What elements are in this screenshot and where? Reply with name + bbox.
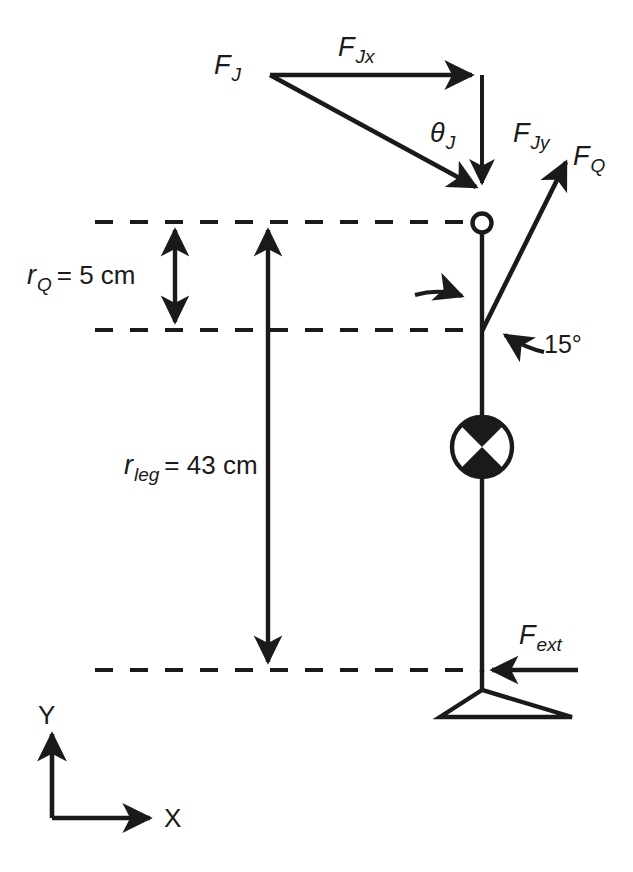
quad-insertion-leader-arrow [415, 292, 462, 296]
moment-arm-quad-label: rQ= 5 cm [27, 262, 136, 289]
moment-arm-leg-symbol: r [124, 452, 133, 479]
force-joint-y-label: FJy [513, 120, 549, 147]
force-joint-x-subscript: Jx [356, 47, 375, 66]
force-joint-y-subscript: Jy [531, 133, 550, 152]
center-of-mass-icon [452, 417, 512, 477]
moment-arm-leg-subscript: leg [134, 465, 159, 484]
force-joint-label: FJ [214, 52, 240, 79]
force-external-label: Fext [519, 622, 561, 649]
biomechanics-free-body-diagram: FJ FJx θJ FJy FQ 15° rQ= 5 cm rleg= 43 c… [0, 0, 633, 872]
axis-x-label: X [164, 805, 181, 831]
foot-triangle [440, 690, 572, 717]
force-joint-x-label: FJx [338, 34, 374, 61]
angle-quad-label: 15° [544, 332, 582, 357]
force-joint-x-symbol: F [338, 34, 355, 61]
force-quad-subscript: Q [591, 156, 606, 175]
quadriceps-force-vector [482, 162, 566, 331]
moment-arm-quad-symbol: r [27, 262, 36, 289]
force-external-subscript: ext [537, 635, 562, 654]
moment-arm-leg-label: rleg= 43 cm [124, 452, 258, 479]
leader-arrows [415, 292, 544, 352]
force-joint-subscript: J [232, 65, 242, 84]
force-quad-vector [482, 162, 566, 331]
coordinate-axes [52, 734, 150, 818]
force-quad-label: FQ [573, 143, 604, 170]
dashed-reference-lines [95, 222, 479, 670]
force-external-symbol: F [519, 622, 536, 649]
moment-arm-quad-subscript: Q [37, 275, 52, 294]
dimension-arrows [175, 230, 268, 662]
moment-arm-leg-value: = 43 cm [164, 452, 257, 478]
angle-joint-subscript: J [446, 133, 456, 152]
axis-y-label: Y [38, 702, 55, 728]
quad-angle-leader-arrow [505, 335, 544, 352]
angle-joint-symbol: θ [430, 120, 445, 147]
force-joint-y-symbol: F [513, 120, 530, 147]
force-quad-symbol: F [573, 143, 590, 170]
foot-shape [440, 670, 572, 717]
moment-arm-quad-value: = 5 cm [57, 262, 136, 288]
force-joint-symbol: F [214, 52, 231, 79]
angle-joint-label: θJ [430, 120, 454, 147]
hip-joint-circle [473, 214, 492, 233]
